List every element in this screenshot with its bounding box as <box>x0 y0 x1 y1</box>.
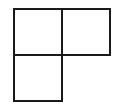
cell-top-right <box>61 8 111 56</box>
cell-top-left <box>13 8 63 56</box>
l-shape-diagram <box>0 0 116 104</box>
cell-bottom-left <box>13 54 63 102</box>
